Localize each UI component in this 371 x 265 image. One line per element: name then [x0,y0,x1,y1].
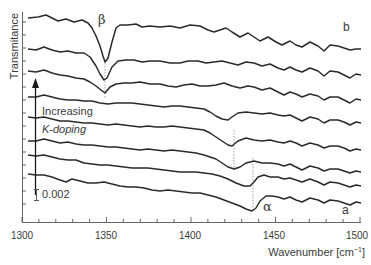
k-doping-label: K-doping [42,123,86,135]
spectrum-3 [28,139,361,173]
x-axis-label-close: ] [362,246,365,258]
beta-peak-label: β [98,12,106,27]
x-ticks [22,217,360,222]
spectrum-7 [28,47,361,80]
spectrum-b [28,15,361,62]
scale-bar-label: 0.002 [42,188,70,200]
increasing-arrow [32,78,39,195]
x-tick-1400: 1400 [179,230,201,241]
scale-bar [34,189,39,201]
x-tick-1300: 1300 [11,230,33,241]
x-tick-1450: 1450 [263,230,285,241]
x-axis-label-exponent: −1 [354,246,362,253]
x-axis-label: Wavenumber [cm−1] [268,246,365,258]
x-tick-1350: 1350 [95,230,117,241]
spectrum-label-b: b [343,20,350,34]
spectrum-label-a: a [342,203,349,217]
y-axis-label: Transmitance [8,6,20,86]
spectrum-6 [28,70,361,103]
alpha-peak-label: α [263,199,272,214]
spectrum-2 [28,155,361,187]
x-tick-1500: 1500 [346,230,368,241]
increasing-label: Increasing [42,105,93,117]
x-axis-label-main: Wavenumber [cm [268,246,354,258]
